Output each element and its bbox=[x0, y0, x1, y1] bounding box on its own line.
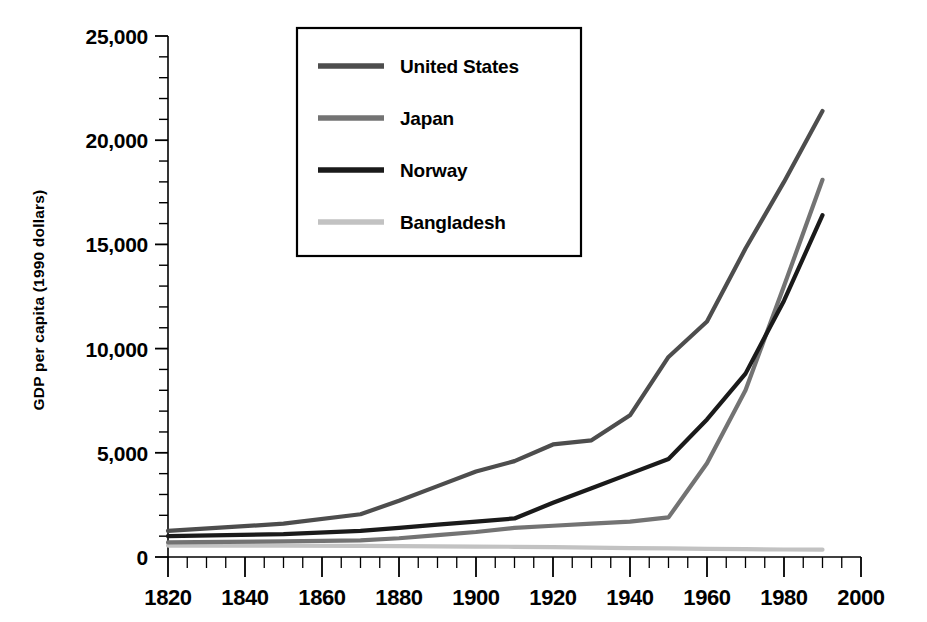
x-tick-label: 1820 bbox=[144, 585, 192, 610]
chart-container: GDP per capita (1990 dollars) 05,00010,0… bbox=[0, 0, 927, 622]
x-tick-label: 1920 bbox=[529, 585, 577, 610]
y-tick-label: 25,000 bbox=[86, 25, 148, 48]
y-tick-label: 15,000 bbox=[86, 233, 148, 256]
x-tick-label: 1880 bbox=[375, 585, 423, 610]
legend: United StatesJapanNorwayBangladesh bbox=[297, 28, 581, 256]
y-axis-label-text: GDP per capita (1990 dollars) bbox=[30, 190, 47, 411]
gdp-per-capita-line-chart: GDP per capita (1990 dollars) 05,00010,0… bbox=[0, 0, 927, 622]
x-tick-label: 2000 bbox=[837, 585, 885, 610]
x-tick-label: 1960 bbox=[683, 585, 731, 610]
legend-label: Norway bbox=[400, 160, 468, 181]
x-tick-label: 1940 bbox=[606, 585, 654, 610]
y-axis-label: GDP per capita (1990 dollars) bbox=[30, 190, 47, 411]
y-tick-label: 5,000 bbox=[97, 442, 148, 465]
y-tick-label: 0 bbox=[137, 546, 148, 569]
y-tick-label: 20,000 bbox=[86, 129, 148, 152]
x-tick-label: 1840 bbox=[221, 585, 269, 610]
y-tick-label: 10,000 bbox=[86, 338, 148, 361]
x-tick-label: 1860 bbox=[298, 585, 346, 610]
x-tick-label: 1900 bbox=[452, 585, 500, 610]
legend-label: Japan bbox=[400, 108, 454, 129]
legend-label: Bangladesh bbox=[400, 212, 506, 233]
legend-label: United States bbox=[400, 56, 519, 77]
x-tick-label: 1980 bbox=[760, 585, 808, 610]
